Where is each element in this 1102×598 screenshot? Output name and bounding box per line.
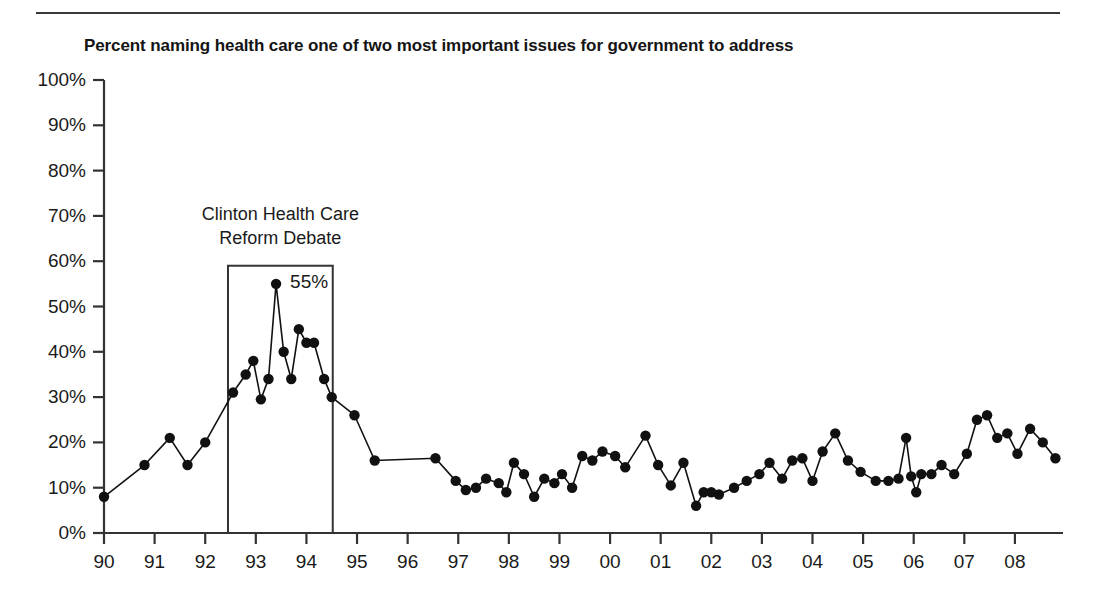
x-tick-label: 96	[386, 551, 430, 573]
x-tick-label: 94	[284, 551, 328, 573]
x-tick-label: 90	[82, 551, 126, 573]
y-tick-label: 0%	[12, 522, 86, 544]
x-tick-label: 93	[234, 551, 278, 573]
line-chart-plot	[0, 0, 1102, 598]
y-tick-label: 70%	[12, 205, 86, 227]
x-axis-ticks	[104, 533, 1015, 544]
annotation-box	[228, 266, 333, 533]
y-tick-label: 40%	[12, 341, 86, 363]
y-tick-label: 60%	[12, 250, 86, 272]
y-axis-ticks	[93, 80, 104, 533]
y-tick-label: 100%	[12, 69, 86, 91]
y-tick-label: 80%	[12, 160, 86, 182]
x-tick-label: 05	[841, 551, 885, 573]
annotation-label-line1: Clinton Health Care	[150, 204, 410, 225]
x-tick-label: 07	[942, 551, 986, 573]
y-tick-label: 10%	[12, 477, 86, 499]
x-tick-label: 06	[892, 551, 936, 573]
x-tick-label: 99	[537, 551, 581, 573]
x-tick-label: 08	[993, 551, 1037, 573]
x-tick-label: 03	[740, 551, 784, 573]
x-tick-label: 91	[133, 551, 177, 573]
y-tick-label: 20%	[12, 431, 86, 453]
chart-page: Percent naming health care one of two mo…	[0, 0, 1102, 598]
y-tick-label: 30%	[12, 386, 86, 408]
annotation-label-line2: Reform Debate	[150, 228, 410, 249]
x-tick-label: 01	[639, 551, 683, 573]
x-tick-label: 02	[689, 551, 733, 573]
data-series	[99, 279, 1061, 511]
x-tick-label: 98	[487, 551, 531, 573]
x-tick-label: 92	[183, 551, 227, 573]
peak-value-label: 55%	[290, 271, 328, 293]
y-tick-label: 90%	[12, 114, 86, 136]
x-tick-label: 97	[436, 551, 480, 573]
y-tick-label: 50%	[12, 296, 86, 318]
x-tick-label: 04	[790, 551, 834, 573]
x-tick-label: 95	[335, 551, 379, 573]
x-tick-label: 00	[588, 551, 632, 573]
